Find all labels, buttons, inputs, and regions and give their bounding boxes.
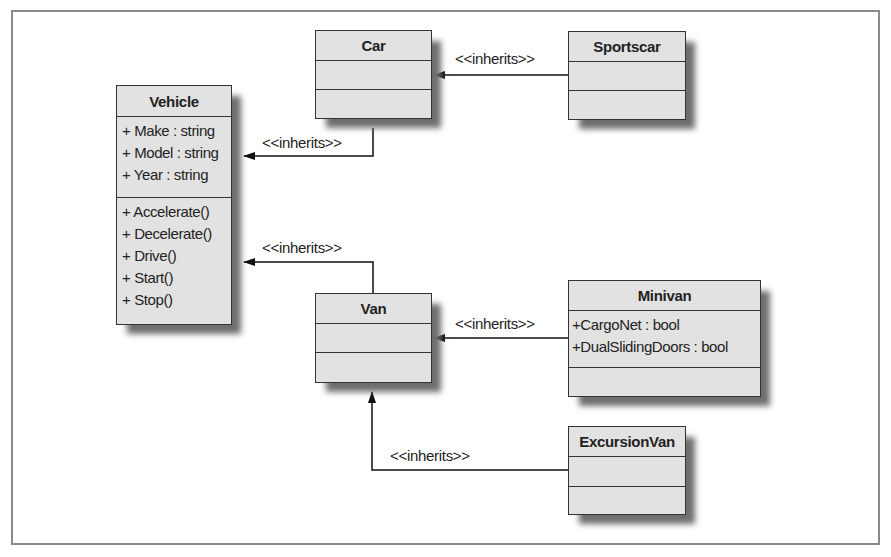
class-sportscar-methods [569,91,685,95]
class-minivan[interactable]: Minivan +CargoNet : bool +DualSlidingDoo… [568,280,761,397]
class-excursionvan-attributes [569,457,685,487]
label-excursionvan-van: <<inherits>> [390,447,470,464]
class-car[interactable]: Car [315,30,432,119]
attribute-cargonet: +CargoNet : bool [572,314,755,336]
attribute-model: + Model : string [122,142,226,164]
class-van-attributes [316,324,431,353]
class-sportscar-name: Sportscar [569,32,685,62]
class-van[interactable]: Van [315,293,432,383]
class-vehicle-attributes: + Make : string + Model : string + Year … [117,117,231,198]
class-excursionvan[interactable]: ExcursionVan [568,426,686,515]
label-sportscar-car: <<inherits>> [455,50,535,67]
label-minivan-van: <<inherits>> [455,315,535,332]
attribute-make: + Make : string [122,120,226,142]
label-van-vehicle: <<inherits>> [262,239,342,256]
method-drive: + Drive() [122,245,226,267]
class-car-name: Car [316,31,431,61]
class-vehicle[interactable]: Vehicle + Make : string + Model : string… [116,85,232,325]
van-to-vehicle-arrow [244,262,373,293]
method-stop: + Stop() [122,289,226,311]
class-van-methods [316,353,431,357]
class-minivan-attributes: +CargoNet : bool +DualSlidingDoors : boo… [569,311,760,368]
class-sportscar[interactable]: Sportscar [568,31,686,120]
method-accelerate: + Accelerate() [122,201,226,223]
class-car-attributes [316,61,431,90]
label-car-vehicle: <<inherits>> [262,134,342,151]
class-excursionvan-name: ExcursionVan [569,427,685,457]
attribute-dualslidingdoors: +DualSlidingDoors : bool [572,336,755,358]
class-sportscar-attributes [569,62,685,91]
method-start: + Start() [122,267,226,289]
attribute-year: + Year : string [122,164,226,186]
class-van-name: Van [316,294,431,324]
class-minivan-name: Minivan [569,281,760,311]
class-car-methods [316,90,431,94]
class-vehicle-methods: + Accelerate() + Decelerate() + Drive() … [117,198,231,313]
class-minivan-methods [569,368,760,372]
method-decelerate: + Decelerate() [122,223,226,245]
class-vehicle-name: Vehicle [117,86,231,117]
class-excursionvan-methods [569,487,685,491]
